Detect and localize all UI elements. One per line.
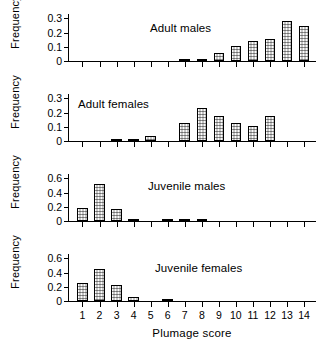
- bar: [248, 126, 259, 141]
- bar: [94, 184, 105, 221]
- y-tick-label: 0.2: [47, 281, 62, 293]
- y-tick-label: 0.1: [47, 121, 62, 133]
- bar: [128, 219, 139, 221]
- bar: [162, 299, 173, 301]
- x-tick-mark: [117, 222, 118, 227]
- y-tick-label: 0.6: [47, 172, 62, 184]
- y-tick-label: 0.3: [47, 12, 62, 24]
- y-tick-mark: [64, 258, 69, 259]
- bar: [265, 39, 276, 61]
- x-tick-mark: [236, 142, 237, 147]
- y-tick-label: 0.4: [47, 187, 62, 199]
- x-tick-mark: [100, 222, 101, 227]
- panel-title: Juvenile females: [155, 262, 242, 274]
- panel-adult-females: Frequency 00.10.20.3 Adult females: [0, 82, 336, 162]
- bar: [111, 285, 122, 301]
- x-tick-label: 14: [294, 309, 314, 321]
- x-tick-mark: [168, 302, 169, 307]
- bar: [231, 123, 242, 141]
- y-tick-mark: [64, 301, 69, 302]
- y-tick-label: 0.6: [47, 252, 62, 264]
- bar: [299, 26, 310, 61]
- y-tick-mark: [64, 273, 69, 274]
- bar: [197, 59, 208, 61]
- x-tick-mark: [134, 62, 135, 67]
- y-tick-mark: [64, 178, 69, 179]
- x-tick-mark: [82, 302, 83, 307]
- panel-title: Adult females: [78, 98, 149, 110]
- x-tick-mark: [117, 302, 118, 307]
- x-tick-mark: [304, 222, 305, 227]
- x-axis-line: [68, 301, 316, 302]
- x-tick-mark: [202, 142, 203, 147]
- y-tick-mark: [64, 141, 69, 142]
- x-tick-mark: [168, 222, 169, 227]
- x-tick-mark: [236, 62, 237, 67]
- panel-title: Juvenile males: [148, 180, 225, 192]
- x-tick-mark: [236, 222, 237, 227]
- x-tick-mark: [168, 62, 169, 67]
- y-axis-title: Frequency: [9, 0, 21, 55]
- x-tick-mark: [134, 222, 135, 227]
- x-axis-title: Plumage score: [68, 327, 316, 339]
- bar: [214, 53, 225, 61]
- x-tick-mark: [219, 302, 220, 307]
- x-tick-mark: [236, 302, 237, 307]
- x-tick-mark: [100, 62, 101, 67]
- y-axis-title: Frequency: [9, 69, 21, 135]
- x-tick-mark: [168, 142, 169, 147]
- y-tick-mark: [64, 61, 69, 62]
- x-tick-mark: [202, 222, 203, 227]
- bar: [214, 116, 225, 141]
- x-tick-mark: [270, 142, 271, 147]
- bar: [128, 297, 139, 301]
- x-tick-mark: [151, 62, 152, 67]
- x-axis-line: [68, 221, 316, 222]
- x-tick-mark: [287, 62, 288, 67]
- x-tick-mark: [185, 142, 186, 147]
- bar: [231, 46, 242, 61]
- x-tick-mark: [287, 222, 288, 227]
- y-tick-mark: [64, 221, 69, 222]
- bar: [197, 219, 208, 221]
- x-tick-mark: [219, 142, 220, 147]
- x-tick-mark: [304, 62, 305, 67]
- x-tick-mark: [100, 302, 101, 307]
- bar: [128, 139, 139, 141]
- bar: [179, 59, 190, 61]
- bar: [265, 116, 276, 141]
- y-tick-mark: [64, 18, 69, 19]
- y-tick-label: 0: [56, 135, 62, 147]
- bar: [145, 136, 156, 141]
- panel-juvenile-males: Frequency 00.20.40.6 Juvenile males: [0, 162, 336, 242]
- x-tick-mark: [219, 62, 220, 67]
- y-tick-mark: [64, 207, 69, 208]
- x-tick-mark: [287, 302, 288, 307]
- y-tick-label: 0: [56, 295, 62, 307]
- x-tick-mark: [253, 302, 254, 307]
- bar: [94, 269, 105, 301]
- x-tick-mark: [202, 62, 203, 67]
- x-tick-mark: [185, 302, 186, 307]
- panel-title: Adult males: [150, 22, 211, 34]
- x-axis-line: [68, 61, 316, 62]
- x-tick-mark: [151, 142, 152, 147]
- y-tick-label: 0.2: [47, 201, 62, 213]
- y-tick-label: 0.4: [47, 267, 62, 279]
- x-tick-mark: [304, 142, 305, 147]
- x-tick-mark: [219, 222, 220, 227]
- y-tick-mark: [64, 127, 69, 128]
- figure: Frequency 00.10.20.3 Adult males Frequen…: [0, 0, 336, 351]
- x-tick-mark: [304, 302, 305, 307]
- x-tick-mark: [82, 142, 83, 147]
- bar: [179, 219, 190, 221]
- x-tick-mark: [134, 142, 135, 147]
- x-tick-mark: [270, 302, 271, 307]
- bar: [179, 123, 190, 141]
- panel-adult-males: Frequency 00.10.20.3 Adult males: [0, 2, 336, 82]
- y-tick-mark: [64, 287, 69, 288]
- y-tick-label: 0.1: [47, 41, 62, 53]
- x-tick-mark: [270, 222, 271, 227]
- bar: [282, 21, 293, 61]
- y-tick-mark: [64, 113, 69, 114]
